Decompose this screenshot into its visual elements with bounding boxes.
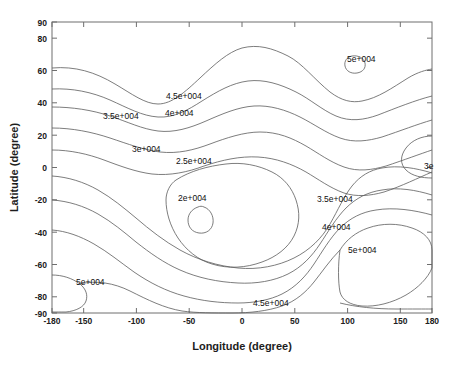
contour-plot-canvas: 4.5e+004 4e+004 3.5e+004 3e+004 2.5e+004… [0,0,460,366]
svg-text:20: 20 [38,131,48,141]
contour-line-20000-closed [188,206,213,233]
contour-label-50000-south-cell: 5e+004 [348,245,377,255]
svg-text:0: 0 [240,316,245,326]
contour-label-45000-north: 4.5e+004 [166,91,202,101]
svg-text:-50: -50 [183,316,196,326]
contour-label-35000-north: 3.5e+004 [103,111,139,121]
contour-label-50000-southpolar: 5e+004 [76,277,105,287]
x-tick-labels: -180 -150 -100 -50 0 50 100 150 180 [43,316,439,326]
contour-line-45000-south [52,209,432,303]
contour-label-40000-north: 4e+004 [165,108,194,118]
svg-text:50: 50 [290,316,300,326]
x-axis-label: Longitude (degree) [192,340,292,352]
svg-text:-40: -40 [35,228,48,238]
svg-text:-60: -60 [35,260,48,270]
contour-label-50000-north-cell: 5e+004 [347,54,376,64]
svg-text:60: 60 [38,66,48,76]
svg-text:-90: -90 [35,309,48,319]
contour-lines-group [52,46,432,313]
contour-label-30000-right: 3e [424,161,434,171]
svg-text:-150: -150 [75,316,92,326]
y-axis-label: Latitude (degree) [8,123,20,213]
contour-line-50000-south-cell [339,224,433,306]
contour-inline-labels: 4.5e+004 4e+004 3.5e+004 3e+004 2.5e+004… [76,54,434,308]
svg-text:150: 150 [393,316,407,326]
contour-label-40000-south: 4e+004 [322,222,351,232]
svg-text:90: 90 [38,18,48,28]
contour-label-45000-bottom: 4.5e+004 [253,298,289,308]
x-tick-marks [52,22,432,313]
svg-text:40: 40 [38,98,48,108]
contour-label-35000-south: 3.5e+004 [317,194,353,204]
contour-line-40000-south [52,189,432,283]
y-tick-labels: 90 80 60 40 20 0 -20 -40 -60 -80 -90 [35,18,48,319]
svg-text:80: 80 [38,34,48,44]
contour-label-25000: 2.5e+004 [176,156,212,166]
y-tick-marks [52,22,432,313]
svg-text:0: 0 [42,163,47,173]
svg-text:-100: -100 [128,316,145,326]
contour-line-30000-north [52,150,432,196]
contour-line-25000-closed [166,163,299,267]
contour-plot-figure: 4.5e+004 4e+004 3.5e+004 3e+004 2.5e+004… [0,0,460,366]
svg-text:180: 180 [425,316,439,326]
contour-label-20000: 2e+004 [178,193,207,203]
contour-label-30000-north: 3e+004 [132,144,161,154]
svg-text:-80: -80 [35,292,48,302]
svg-text:100: 100 [341,316,355,326]
svg-text:-20: -20 [35,195,48,205]
plot-axes-frame [52,22,432,313]
